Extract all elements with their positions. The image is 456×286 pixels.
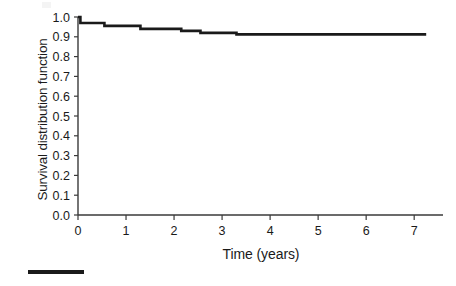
y-tick-label: 0.8 <box>53 50 70 64</box>
y-tick-label: 0.0 <box>53 209 70 223</box>
x-axis-title: Time (years) <box>78 246 444 262</box>
x-axis-ticks <box>78 215 414 220</box>
y-tick-label: 0.3 <box>53 149 70 163</box>
figure-container: 0.00.10.20.30.40.50.60.70.80.91.0 012345… <box>0 0 456 286</box>
y-tick-label: 0.7 <box>53 70 70 84</box>
y-tick-label: 0.5 <box>53 110 70 124</box>
x-tick-label: 0 <box>75 224 82 238</box>
x-tick-label: 3 <box>219 224 226 238</box>
data-series-group <box>78 17 426 34</box>
y-tick-label: 0.2 <box>53 169 70 183</box>
x-axis-tick-labels: 01234567 <box>75 224 418 238</box>
y-tick-label: 0.9 <box>53 30 70 44</box>
x-tick-label: 4 <box>267 224 274 238</box>
x-tick-label: 2 <box>171 224 178 238</box>
y-tick-label: 1.0 <box>53 11 70 25</box>
x-tick-label: 5 <box>315 224 322 238</box>
y-axis-tick-labels: 0.00.10.20.30.40.50.60.70.80.91.0 <box>53 11 70 223</box>
x-tick-label: 6 <box>363 224 370 238</box>
survival-plot-svg: 0.00.10.20.30.40.50.60.70.80.91.0 012345… <box>0 0 456 286</box>
y-tick-label: 0.4 <box>53 129 70 143</box>
survival-curve-path <box>78 17 426 34</box>
y-axis-title: Survival distribution function <box>35 15 50 225</box>
legend-line-key <box>28 270 84 274</box>
x-tick-label: 7 <box>411 224 418 238</box>
y-tick-label: 0.1 <box>53 189 70 203</box>
x-tick-label: 1 <box>123 224 130 238</box>
y-tick-label: 0.6 <box>53 90 70 104</box>
